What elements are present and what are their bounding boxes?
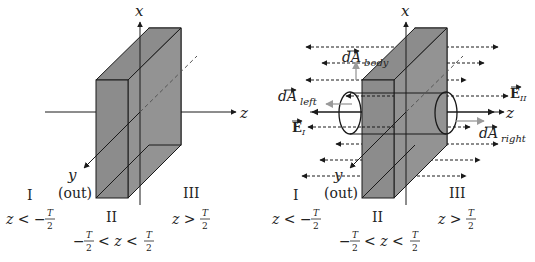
frac-num: T	[202, 208, 209, 218]
y-axis-label: y	[333, 166, 343, 184]
dA-left-label: dA left	[278, 88, 318, 107]
svg-text:dA: dA	[479, 125, 498, 141]
E-II-label: E II	[510, 86, 527, 103]
svg-text:right: right	[501, 133, 527, 144]
frac-den: 2	[47, 221, 53, 231]
left-panel: x z y (out) I z < − T 2 II − T 2 < z < T…	[5, 2, 248, 253]
svg-text:I: I	[301, 128, 306, 137]
y-out-label: (out)	[324, 185, 358, 201]
frac-den: 2	[352, 243, 358, 253]
frac-num: T	[313, 208, 320, 218]
svg-text:body: body	[364, 57, 389, 68]
cylinder-left-cap	[339, 92, 361, 134]
slab-front-face	[96, 80, 128, 198]
svg-text:dA: dA	[342, 49, 361, 65]
z-axis-label: z	[505, 104, 514, 122]
region-I-condition: z < −	[271, 211, 312, 227]
x-axis-label: x	[135, 2, 144, 20]
region-II-label: II	[106, 209, 117, 225]
region-III-condition: z >	[437, 211, 462, 227]
y-out-label: (out)	[58, 185, 92, 201]
frac-den: 2	[86, 243, 92, 253]
region-II-label: II	[372, 209, 383, 225]
region-I-label: I	[293, 187, 299, 203]
y-axis-label: y	[67, 166, 77, 184]
dA-right-label: dA right	[479, 125, 527, 144]
region-I-label: I	[27, 187, 33, 203]
E-I-label: E I	[292, 120, 306, 137]
frac-den: 2	[202, 221, 208, 231]
svg-text:E: E	[510, 86, 520, 101]
region-I-condition: z < −	[5, 211, 46, 227]
x-axis-label: x	[401, 2, 410, 20]
frac-num: T	[146, 230, 153, 240]
frac-num: T	[468, 208, 475, 218]
svg-text:left: left	[300, 96, 318, 107]
frac-den: 2	[146, 243, 152, 253]
dA-body-label: dA body	[342, 49, 389, 68]
slab-front-face	[362, 80, 394, 198]
frac-num: T	[47, 208, 54, 218]
region-II-minus: −	[339, 233, 351, 249]
right-panel: x z y (out) dA body dA left E I E II	[271, 2, 527, 253]
frac-num: T	[352, 230, 359, 240]
frac-num: T	[412, 230, 419, 240]
svg-text:II: II	[519, 94, 527, 103]
frac-num: T	[86, 230, 93, 240]
region-II-condition: < z <	[364, 233, 404, 249]
region-II-condition: < z <	[98, 233, 138, 249]
z-axis-label: z	[239, 104, 248, 122]
frac-den: 2	[468, 221, 474, 231]
region-III-label: III	[183, 185, 200, 201]
region-III-label: III	[449, 185, 466, 201]
gauss-law-slab-diagram: x z y (out) I z < − T 2 II − T 2 < z < T…	[0, 0, 535, 262]
region-III-condition: z >	[171, 211, 196, 227]
frac-den: 2	[313, 221, 319, 231]
svg-text:E: E	[292, 120, 302, 135]
frac-den: 2	[412, 243, 418, 253]
region-II-minus: −	[73, 233, 85, 249]
svg-text:dA: dA	[278, 88, 297, 104]
